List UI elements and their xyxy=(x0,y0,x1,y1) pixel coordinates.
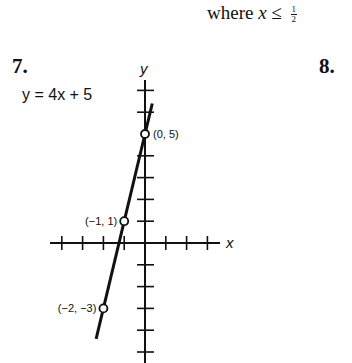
graph-plot: x y (0, 5)(−1, 1)(−2, −3) xyxy=(0,0,352,363)
plotted-points: (0, 5)(−1, 1)(−2, −3) xyxy=(58,128,179,314)
point-label: (0, 5) xyxy=(153,128,179,140)
point-label: (−1, 1) xyxy=(85,215,117,227)
point-marker xyxy=(120,217,128,225)
point-marker xyxy=(99,304,107,312)
axes xyxy=(50,80,220,363)
point-label: (−2, −3) xyxy=(58,302,97,314)
point-marker xyxy=(141,130,149,138)
y-axis-label: y xyxy=(139,60,149,77)
x-axis-label: x xyxy=(225,234,234,251)
